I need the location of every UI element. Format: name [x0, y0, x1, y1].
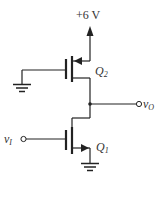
- supply-arrow-icon: [87, 26, 94, 61]
- input-label: vI: [4, 132, 12, 147]
- circuit-diagram: +6 V Q2 vO: [0, 0, 158, 197]
- input-terminal: [21, 136, 26, 141]
- q1-label: Q1: [96, 140, 109, 155]
- q2-label: Q2: [95, 64, 108, 79]
- transistor-q2: [22, 56, 90, 118]
- source-arrow-icon: [74, 57, 82, 65]
- output-terminal: [136, 101, 141, 106]
- output-label: vO: [143, 97, 154, 112]
- transistor-q1: [26, 118, 90, 163]
- ground-icon: [81, 164, 99, 171]
- supply-label: +6 V: [76, 8, 101, 22]
- ground-icon: [13, 85, 31, 92]
- source-arrow-icon: [81, 144, 89, 152]
